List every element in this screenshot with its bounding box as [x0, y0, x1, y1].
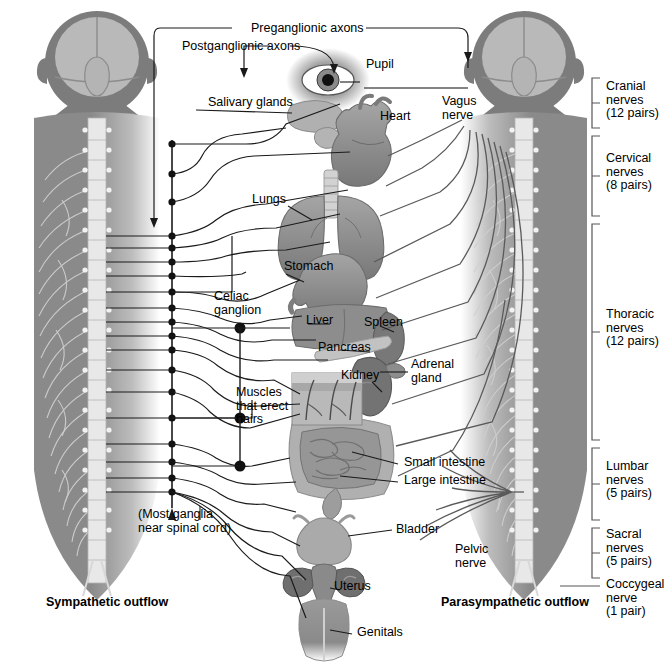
label-lungs: Lungs: [252, 193, 286, 207]
label-preganglionic-axons: Preganglionic axons: [251, 22, 364, 36]
sympathetic-chain: [168, 140, 176, 520]
label-large-intestine: Large intestine: [404, 474, 486, 488]
label-salivary-glands: Salivary glands: [208, 96, 293, 110]
title-parasympathetic-outflow: Parasympathetic outflow: [441, 596, 589, 610]
label-bladder: Bladder: [396, 523, 439, 537]
left-head: [37, 11, 157, 123]
label-vagus-nerve: Vagus nerve: [442, 95, 477, 122]
label-spleen: Spleen: [364, 316, 403, 330]
right-figure-parasympathetic: [461, 11, 587, 600]
title-sympathetic-outflow: Sympathetic outflow: [46, 596, 168, 610]
label-coccygeal-nerve: Coccygeal nerve (1 pair): [606, 578, 664, 619]
label-pelvic-nerve: Pelvic nerve: [455, 543, 488, 570]
label-kidney: Kidney: [341, 369, 379, 383]
label-pancreas: Pancreas: [318, 341, 371, 355]
label-heart: Heart: [380, 110, 411, 124]
label-liver: Liver: [306, 314, 333, 328]
label-uterus: Uterus: [334, 580, 371, 594]
organ-genitals: [299, 599, 349, 661]
label-sacral-nerves: Sacral nerves (5 pairs): [606, 528, 652, 569]
label-cervical-nerves: Cervical nerves (8 pairs): [606, 152, 652, 193]
label-muscles-that-erect-hairs: Muscles that erect hairs: [236, 386, 288, 427]
label-pupil: Pupil: [366, 58, 394, 72]
note-most-ganglia-near-spinal-cord: (Most ganglia near spinal cord): [138, 508, 231, 535]
autonomic-nervous-system-diagram: Preganglionic axons Postganglionic axons…: [0, 0, 672, 671]
label-genitals: Genitals: [357, 626, 403, 640]
label-small-intestine: Small intestine: [404, 456, 485, 470]
postganglionic-arrowhead: [240, 68, 248, 78]
label-cranial-nerves: Cranial nerves (12 pairs): [606, 80, 659, 121]
label-thoracic-nerves: Thoracic nerves (12 pairs): [606, 308, 659, 349]
label-celiac-ganglion: Celiac ganglion: [214, 290, 261, 317]
label-stomach: Stomach: [284, 260, 333, 274]
label-adrenal-gland: Adrenal gland: [411, 358, 454, 385]
organ-bladder: [294, 516, 354, 565]
organ-intestines: [289, 417, 394, 519]
right-head: [464, 11, 584, 123]
diagram-canvas: [0, 0, 672, 671]
label-lumbar-nerves: Lumbar nerves (5 pairs): [606, 460, 652, 501]
label-postganglionic-axons: Postganglionic axons: [182, 40, 300, 54]
